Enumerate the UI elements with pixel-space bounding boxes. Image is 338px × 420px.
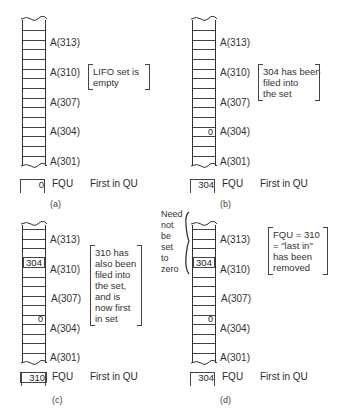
fqu-value: 0	[20, 179, 45, 189]
address-label: A(310)	[220, 68, 250, 78]
address-label: A(301)	[220, 353, 250, 363]
cell-value: 0	[208, 315, 213, 324]
cell-value: 0	[208, 128, 213, 137]
address-label: A(301)	[50, 353, 80, 363]
wavy-break-top-icon	[189, 221, 219, 227]
address-label: A(307)	[221, 294, 251, 304]
wavy-break-bottom-icon	[189, 360, 219, 366]
fqu-name: FQU	[52, 179, 73, 189]
address-label: A(313)	[220, 235, 250, 245]
annotation-note: LIFO set is empty	[88, 64, 150, 90]
panel-caption: (c)	[52, 395, 63, 405]
wavy-break-top-icon	[19, 16, 49, 22]
fqu-description: First in QU	[90, 179, 138, 189]
address-label: A(313)	[220, 38, 250, 48]
memory-column	[22, 20, 46, 166]
wavy-break-bottom-icon	[189, 163, 219, 169]
address-label: A(304)	[220, 324, 250, 334]
wavy-break-bottom-icon	[19, 360, 49, 366]
address-label: A(307)	[220, 98, 250, 108]
wavy-break-top-icon	[189, 16, 219, 22]
cell-value: 304	[193, 257, 215, 268]
annotation-note: FQU = 310 = "last in" has been removed	[268, 227, 328, 275]
fqu-name: FQU	[52, 372, 73, 382]
address-label: A(304)	[220, 127, 250, 137]
address-label: A(307)	[50, 98, 80, 108]
address-label: A(301)	[50, 157, 80, 167]
address-label: A(310)	[50, 265, 80, 275]
panel-caption: (d)	[220, 395, 231, 405]
fqu-description: First in QU	[260, 372, 308, 382]
address-label: A(301)	[220, 157, 250, 167]
annotation-note: 304 has been filed into the set	[258, 64, 320, 101]
address-label: A(313)	[50, 38, 80, 48]
fqu-value: 310	[20, 372, 47, 383]
address-label: A(313)	[50, 235, 80, 245]
fqu-value: 304	[190, 179, 215, 189]
fqu-name: FQU	[222, 179, 243, 189]
address-label: A(307)	[51, 294, 81, 304]
panel-a: A(313) A(310) A(307) A(304) A(301) LIFO …	[0, 0, 169, 210]
address-label: A(304)	[50, 324, 80, 334]
fqu-description: First in QU	[90, 372, 138, 382]
cell-value: 0	[38, 315, 43, 324]
wavy-break-bottom-icon	[19, 163, 49, 169]
panel-d: Need not be set to zero 304 0 A(313) A(3…	[170, 205, 338, 415]
annotation-note: 310 has also been filed into the set, an…	[90, 245, 142, 326]
address-label: A(304)	[50, 127, 80, 137]
memory-column: 304 0	[22, 225, 46, 363]
memory-column: 0	[192, 20, 216, 166]
address-label: A(310)	[50, 68, 80, 78]
panel-c: 304 0 A(313) A(310) A(307) A(304) A(301)…	[0, 205, 169, 415]
fqu-value: 304	[190, 372, 215, 382]
fqu-description: First in QU	[260, 179, 308, 189]
address-label: A(310)	[220, 265, 250, 275]
cell-value: 304	[23, 257, 45, 268]
wavy-break-top-icon	[19, 221, 49, 227]
fqu-name: FQU	[222, 372, 243, 382]
panel-b: 0 A(313) A(310) A(307) A(304) A(301) 304…	[170, 0, 338, 210]
memory-column: 304 0	[192, 225, 216, 363]
side-note: Need not be set to zero	[161, 209, 183, 275]
